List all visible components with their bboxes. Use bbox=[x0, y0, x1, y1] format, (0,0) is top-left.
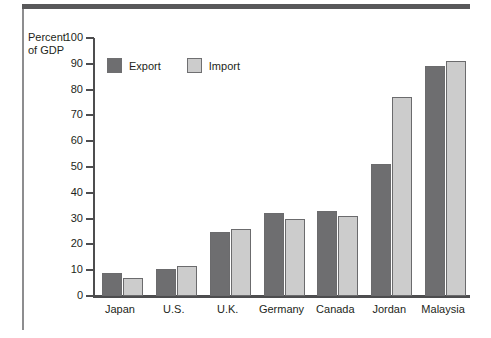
y-axis-tick-label: 20 bbox=[71, 238, 83, 249]
y-axis-tick-label: 100 bbox=[65, 32, 83, 43]
x-axis-category-label: U.K. bbox=[217, 303, 238, 315]
x-axis-category-label: Canada bbox=[316, 303, 355, 315]
plot-area bbox=[93, 38, 470, 296]
bar-export bbox=[156, 269, 176, 296]
bar-group bbox=[259, 38, 305, 296]
x-axis-category-label: Jordan bbox=[372, 303, 406, 315]
bar-import bbox=[123, 278, 143, 296]
bar-import bbox=[338, 216, 358, 296]
bar-import bbox=[446, 61, 466, 296]
chart-figure: Percent of GDP 1009080706050403020100 Ex… bbox=[0, 0, 491, 338]
y-axis-tick-label: 80 bbox=[71, 84, 83, 95]
bar-export bbox=[102, 273, 122, 296]
bar-import bbox=[177, 266, 197, 296]
bar-import bbox=[231, 229, 251, 296]
bar-export bbox=[371, 164, 391, 296]
x-axis-category-label: U.S. bbox=[163, 303, 184, 315]
bar-export bbox=[264, 213, 284, 296]
y-axis-tick-label: 70 bbox=[71, 109, 83, 120]
x-axis-category-label: Germany bbox=[259, 303, 304, 315]
y-axis-tick-label: 60 bbox=[71, 135, 83, 146]
bar-group bbox=[151, 38, 197, 296]
y-axis-tick-label: 90 bbox=[71, 58, 83, 69]
bar-group bbox=[312, 38, 358, 296]
y-axis-tick-label: 30 bbox=[71, 213, 83, 224]
bar-group bbox=[420, 38, 466, 296]
y-axis-tick-label: 10 bbox=[71, 264, 83, 275]
bar-import bbox=[392, 97, 412, 296]
bar-export bbox=[210, 232, 230, 297]
bar-group bbox=[366, 38, 412, 296]
bar-group bbox=[97, 38, 143, 296]
top-rule-decoration bbox=[22, 4, 470, 9]
bar-export bbox=[425, 66, 445, 296]
y-axis-tick-label: 0 bbox=[77, 290, 83, 301]
x-axis-category-label: Japan bbox=[105, 303, 135, 315]
y-axis-tick-labels: 1009080706050403020100 bbox=[0, 0, 83, 338]
y-axis-tick-label: 40 bbox=[71, 187, 83, 198]
y-axis-tick-label: 50 bbox=[71, 161, 83, 172]
bar-import bbox=[285, 219, 305, 296]
x-axis-category-label: Malaysia bbox=[421, 303, 464, 315]
bar-export bbox=[317, 211, 337, 296]
bar-group bbox=[205, 38, 251, 296]
